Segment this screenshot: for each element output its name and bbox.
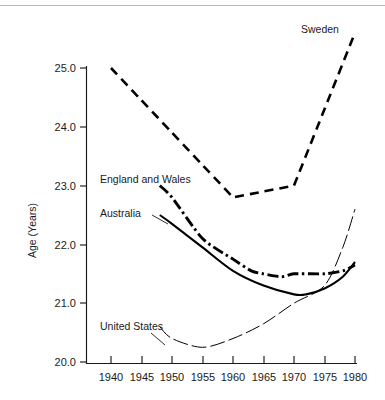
series-line-australia — [160, 215, 355, 295]
series-label-england-and-wales: England and Wales — [100, 173, 191, 185]
x-tick-label-1970: 1970 — [282, 371, 306, 383]
x-tick-label-1960: 1960 — [221, 371, 245, 383]
x-tick-label-1940: 1940 — [99, 371, 123, 383]
y-tick-label-24: 24.0 — [55, 121, 76, 133]
y-tick-label-21: 21.0 — [55, 297, 76, 309]
figure-container: 25.0 24.0 23.0 22.0 21.0 20.0 Age (Years… — [0, 0, 385, 400]
leader-line-united-states — [151, 333, 165, 345]
data-series-group — [111, 33, 355, 348]
series-label-united-states: United States — [100, 320, 163, 332]
line-chart: 25.0 24.0 23.0 22.0 21.0 20.0 Age (Years… — [0, 0, 385, 400]
x-tick-label-1975: 1975 — [313, 371, 337, 383]
y-tick-label-23: 23.0 — [55, 180, 76, 192]
x-tick-label-1945: 1945 — [130, 371, 154, 383]
y-tick-label-25: 25.0 — [55, 62, 76, 74]
x-tick-label-1965: 1965 — [252, 371, 276, 383]
x-axis: 1940 1945 1950 1955 1960 1965 1970 1975 … — [87, 356, 368, 383]
y-axis: 25.0 24.0 23.0 22.0 21.0 20.0 — [55, 62, 87, 368]
series-label-sweden: Sweden — [301, 23, 339, 35]
y-tick-label-20: 20.0 — [55, 356, 76, 368]
series-line-england-and-wales — [160, 186, 355, 277]
series-line-united-states — [160, 209, 355, 347]
x-tick-label-1950: 1950 — [160, 371, 184, 383]
y-axis-title: Age (Years) — [26, 203, 38, 258]
y-tick-label-22: 22.0 — [55, 239, 76, 251]
x-tick-label-1955: 1955 — [191, 371, 215, 383]
series-label-australia: Australia — [100, 207, 141, 219]
x-tick-label-1980: 1980 — [343, 371, 367, 383]
